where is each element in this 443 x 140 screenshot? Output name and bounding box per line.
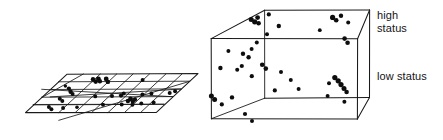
high-status-label-line1: high [377, 9, 398, 21]
cube-figure [209, 10, 370, 123]
high-status-label: highstatus [377, 9, 407, 34]
high-status-label-line2: status [377, 22, 407, 34]
grid-plane-figure [26, 74, 199, 121]
figure-root: highstatus low status [0, 0, 443, 140]
low-status-label: low status [377, 70, 427, 83]
